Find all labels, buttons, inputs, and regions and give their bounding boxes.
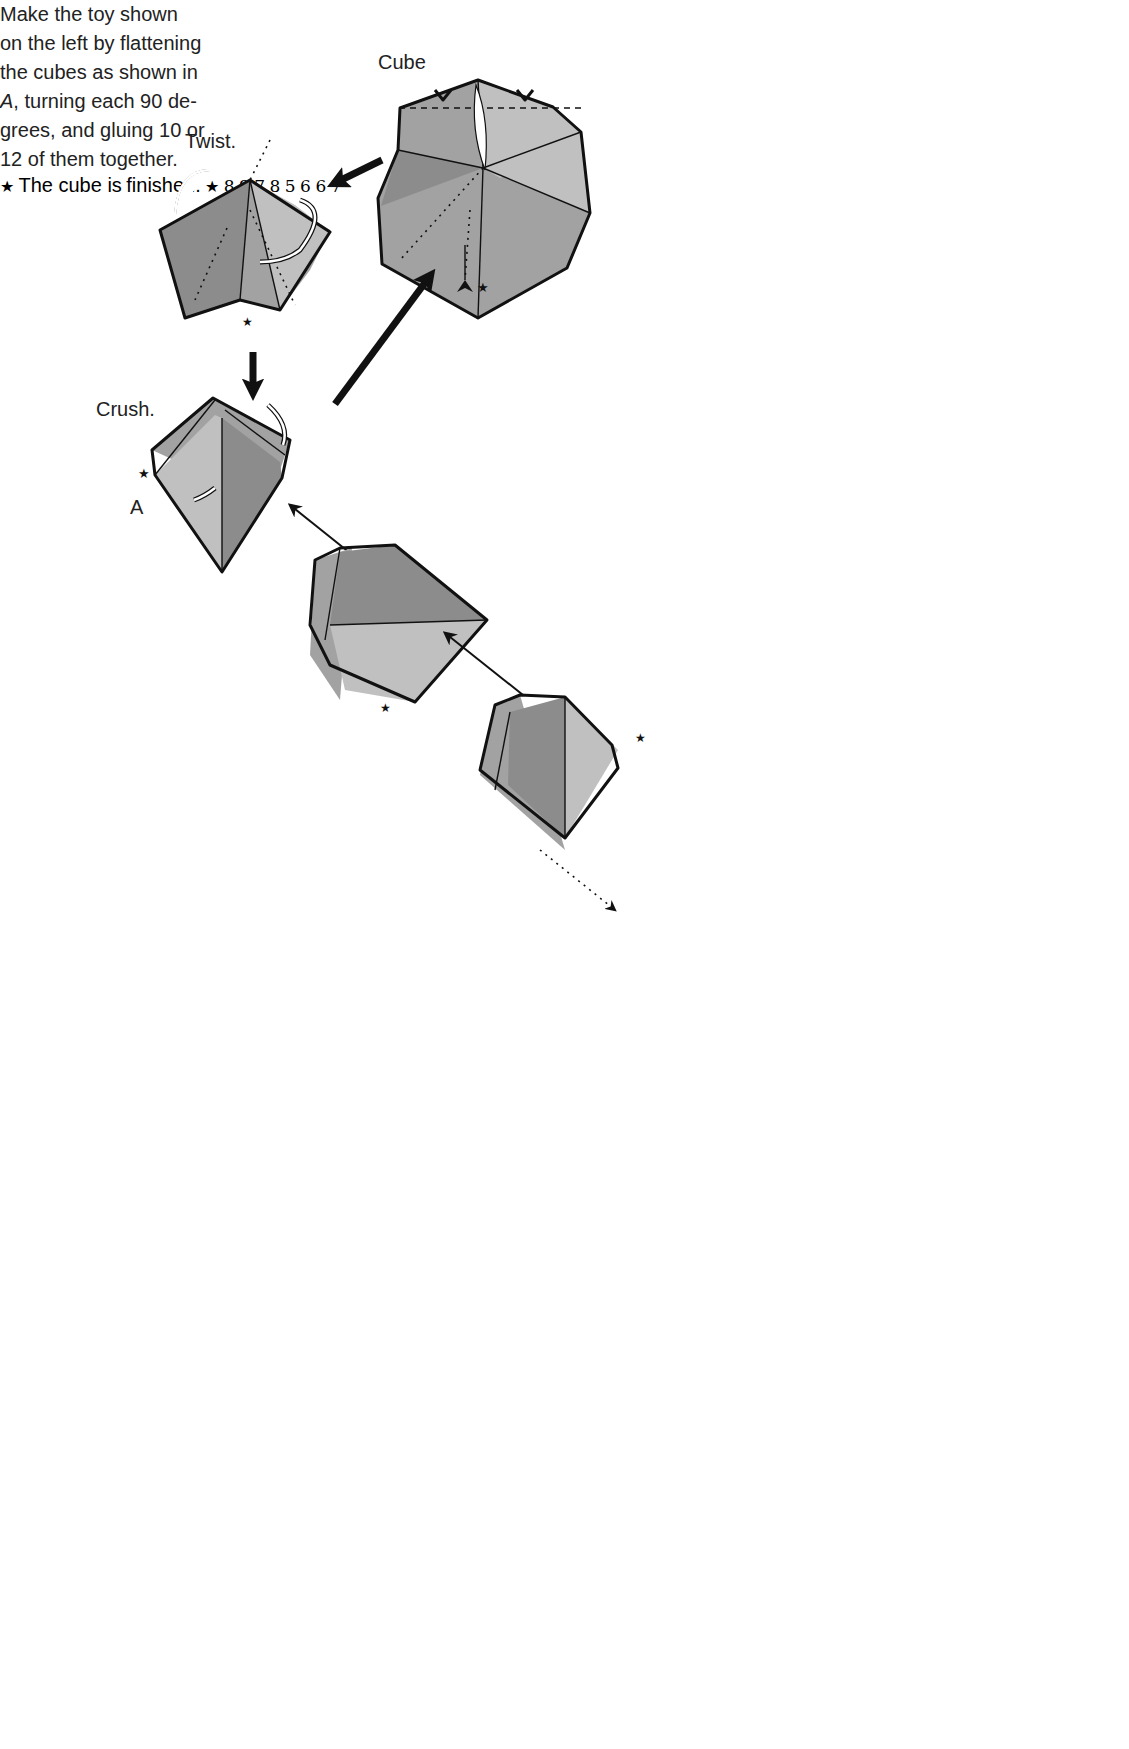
twist-figure: Twist. ★ bbox=[160, 130, 330, 329]
crush-figure: Crush. A ★ bbox=[96, 398, 290, 572]
arrow-to-twist-icon bbox=[335, 160, 382, 183]
twist-label: Twist. bbox=[185, 130, 236, 152]
cube-label: Cube bbox=[378, 51, 426, 73]
star-marker-icon: ★ bbox=[477, 280, 489, 295]
star-marker-icon: ★ bbox=[242, 315, 253, 329]
star-marker-icon: ★ bbox=[138, 466, 150, 481]
flattened-cube-3: ★ bbox=[480, 695, 646, 850]
crush-label: Crush. bbox=[96, 398, 155, 420]
arrow-icon bbox=[445, 633, 523, 695]
origami-diagram: Cube ★ Twist. bbox=[0, 0, 1129, 1749]
dotted-arrow-icon bbox=[540, 850, 615, 910]
arrow-to-cube-icon bbox=[335, 276, 430, 404]
flattened-cube-2: ★ bbox=[310, 545, 487, 715]
point-a-label: A bbox=[130, 496, 144, 518]
star-marker-icon: ★ bbox=[635, 731, 646, 745]
star-marker-icon: ★ bbox=[380, 701, 391, 715]
cube-figure: Cube ★ bbox=[378, 51, 590, 318]
